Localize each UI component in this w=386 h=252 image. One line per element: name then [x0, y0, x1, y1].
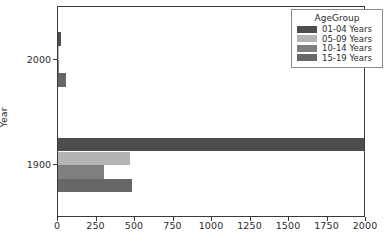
x-tick-label: 1250 — [237, 220, 262, 231]
legend-entry: 10-14 Years — [297, 44, 377, 53]
legend-label: 15-19 Years — [322, 54, 372, 63]
x-tick-label: 750 — [163, 220, 181, 231]
legend-swatch-icon — [297, 45, 317, 52]
bar — [58, 138, 364, 151]
legend-entry: 05-09 Years — [297, 35, 377, 44]
bar — [58, 73, 66, 86]
bar — [58, 32, 61, 45]
x-tick-label: 0 — [54, 220, 60, 231]
legend-label: 05-09 Years — [322, 35, 372, 44]
y-tick-mark — [53, 59, 57, 60]
y-tick-label: 2000 — [27, 53, 51, 64]
legend: AgeGroup 01-04 Years05-09 Years10-14 Yea… — [291, 9, 383, 68]
legend-entries: 01-04 Years05-09 Years10-14 Years15-19 Y… — [297, 25, 377, 62]
legend-label: 01-04 Years — [322, 25, 372, 34]
legend-entry: 01-04 Years — [297, 25, 377, 34]
x-tick-label: 1500 — [276, 220, 301, 231]
x-tick-label: 2000 — [353, 220, 378, 231]
x-tick-label: 500 — [125, 220, 143, 231]
legend-swatch-icon — [297, 26, 317, 33]
legend-label: 10-14 Years — [322, 44, 372, 53]
legend-swatch-icon — [297, 35, 317, 42]
y-axis-label: Year — [0, 107, 9, 127]
x-tick-label: 1750 — [314, 220, 339, 231]
x-tick-label: 250 — [86, 220, 104, 231]
legend-entry: 15-19 Years — [297, 54, 377, 63]
x-tick-label: 1000 — [199, 220, 224, 231]
bar — [58, 152, 130, 165]
legend-swatch-icon — [297, 54, 317, 61]
y-tick-mark — [53, 164, 57, 165]
bar — [58, 179, 132, 192]
legend-title: AgeGroup — [297, 13, 377, 23]
bar — [58, 165, 104, 178]
bar-chart-figure: Year 02505007501000125015001750200020001… — [0, 0, 386, 252]
y-tick-label: 1900 — [27, 159, 51, 170]
